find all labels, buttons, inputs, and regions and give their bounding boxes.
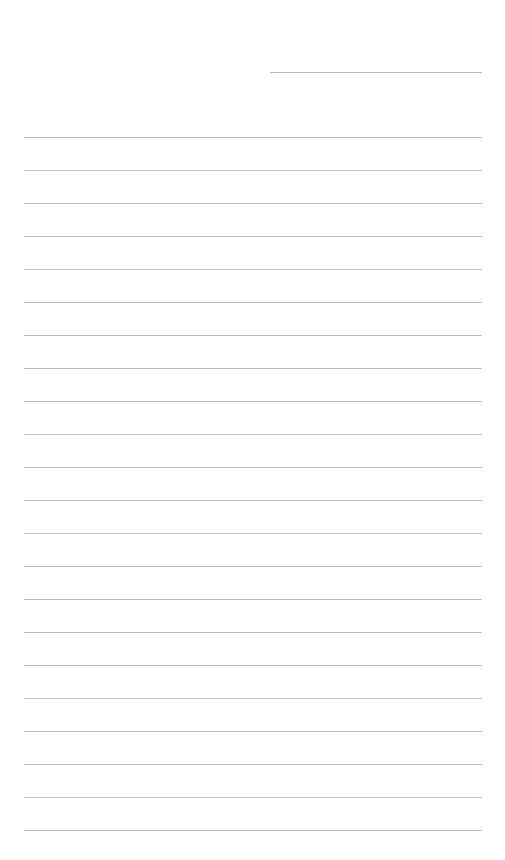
ruled-line	[24, 302, 482, 303]
ruled-line	[24, 764, 482, 765]
ruled-line	[24, 698, 482, 699]
ruled-line	[24, 533, 482, 534]
ruled-line	[24, 665, 482, 666]
ruled-line	[24, 467, 482, 468]
ruled-line	[24, 170, 482, 171]
ruled-line	[24, 368, 482, 369]
ruled-line	[24, 566, 482, 567]
ruled-line	[24, 269, 482, 270]
ruled-line	[24, 335, 482, 336]
ruled-line	[24, 203, 482, 204]
ruled-line	[24, 797, 482, 798]
ruled-line	[24, 830, 482, 831]
ruled-line	[24, 401, 482, 402]
ruled-line	[24, 632, 482, 633]
ruled-line	[24, 137, 482, 138]
lined-paper-page	[0, 0, 505, 860]
ruled-line	[24, 434, 482, 435]
ruled-line	[24, 599, 482, 600]
ruled-line	[24, 731, 482, 732]
ruled-line	[24, 500, 482, 501]
header-field-line	[270, 72, 482, 73]
ruled-line	[24, 236, 482, 237]
